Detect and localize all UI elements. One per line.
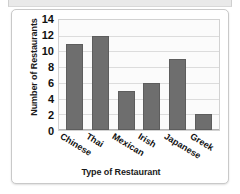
x-axis-title: Type of Restaurant	[12, 167, 230, 177]
bar-series	[59, 20, 219, 130]
y-tick-label: 4	[48, 93, 54, 104]
x-axis-tick-labels: ChineseThaiMexicanIrishJapaneseGreek	[58, 132, 220, 170]
window-top-band	[8, 0, 232, 7]
y-tick-label: 0	[48, 126, 54, 137]
chart-card: Number of Restaurants 14 12 10 8 6 4 2 0…	[11, 9, 229, 184]
y-tick-label: 10	[42, 45, 54, 56]
bar-chinese	[66, 44, 83, 130]
bar-irish	[143, 83, 160, 130]
y-tick-label: 12	[42, 29, 54, 40]
plot-area	[58, 19, 220, 131]
y-tick-label: 2	[48, 109, 54, 120]
chart-screenshot: Number of Restaurants 14 12 10 8 6 4 2 0…	[0, 0, 240, 194]
bar-japanese	[169, 59, 186, 130]
bar-mexican	[118, 91, 135, 130]
bar-greek	[195, 114, 212, 130]
y-tick-label: 14	[42, 14, 54, 25]
bar-thai	[92, 36, 109, 130]
y-tick-label: 8	[48, 61, 54, 72]
y-tick-label: 6	[48, 77, 54, 88]
y-axis-tick-labels: 14 12 10 8 6 4 2 0	[32, 19, 54, 131]
